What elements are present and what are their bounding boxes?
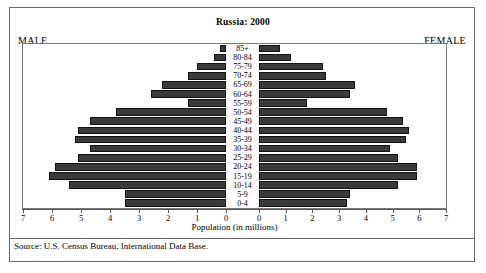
age-group-label: 80-84 xyxy=(226,53,259,62)
bar-male-40-44 xyxy=(78,127,226,135)
bar-female-0-4 xyxy=(259,199,347,207)
bar-female-30-34 xyxy=(259,145,390,153)
bar-male-55-59 xyxy=(188,99,226,107)
bar-male-20-24 xyxy=(55,163,226,171)
bar-female-65-69 xyxy=(259,81,355,89)
plot-area: 85+80-8475-7970-7465-6960-6455-5950-5445… xyxy=(22,43,447,209)
age-group-label: 30-34 xyxy=(226,144,259,153)
bar-female-50-54 xyxy=(259,108,387,116)
source-note: Source: U.S. Census Bureau, Internationa… xyxy=(14,241,208,251)
age-group-label: 20-24 xyxy=(226,162,259,171)
bar-female-5-9 xyxy=(259,190,350,198)
bar-female-25-29 xyxy=(259,154,398,162)
bar-male-60-64 xyxy=(151,90,226,98)
age-group-label: 60-64 xyxy=(226,90,259,99)
bar-male-35-39 xyxy=(75,136,226,144)
age-group-label: 15-19 xyxy=(226,172,259,181)
age-group-label: 45-49 xyxy=(226,117,259,126)
bar-female-45-49 xyxy=(259,117,403,125)
age-group-label: 85+ xyxy=(226,44,259,53)
bar-male-25-29 xyxy=(78,154,226,162)
bar-male-70-74 xyxy=(188,72,226,80)
bar-male-5-9 xyxy=(125,190,227,198)
age-group-label: 50-54 xyxy=(226,108,259,117)
age-group-label: 75-79 xyxy=(226,62,259,71)
age-group-label: 65-69 xyxy=(226,80,259,89)
age-group-label: 55-59 xyxy=(226,99,259,108)
age-group-label: 0-4 xyxy=(226,199,259,208)
age-label-column: 85+80-8475-7970-7465-6960-6455-5950-5445… xyxy=(226,44,259,208)
bar-female-15-19 xyxy=(259,172,417,180)
x-axis-title: Population (in millions) xyxy=(22,222,447,232)
bar-male-80-84 xyxy=(214,54,226,62)
bar-female-55-59 xyxy=(259,99,307,107)
age-group-label: 25-29 xyxy=(226,153,259,162)
bar-male-30-34 xyxy=(90,145,226,153)
bar-male-50-54 xyxy=(116,108,226,116)
age-group-label: 40-44 xyxy=(226,126,259,135)
bar-female-40-44 xyxy=(259,127,409,135)
axis-line xyxy=(22,209,447,210)
bar-male-65-69 xyxy=(162,81,226,89)
bar-female-20-24 xyxy=(259,163,417,171)
bar-female-85+ xyxy=(259,45,280,53)
age-group-label: 5-9 xyxy=(226,190,259,199)
source-divider xyxy=(9,238,475,239)
bar-male-45-49 xyxy=(90,117,226,125)
bar-male-15-19 xyxy=(49,172,226,180)
age-group-label: 70-74 xyxy=(226,71,259,80)
bar-female-80-84 xyxy=(259,54,291,62)
age-group-label: 35-39 xyxy=(226,135,259,144)
bar-female-35-39 xyxy=(259,136,406,144)
bar-female-10-14 xyxy=(259,181,398,189)
bar-male-75-79 xyxy=(197,63,226,71)
bar-female-75-79 xyxy=(259,63,323,71)
age-group-label: 10-14 xyxy=(226,181,259,190)
page-title: Russia: 2000 xyxy=(10,17,476,27)
bar-female-60-64 xyxy=(259,90,350,98)
bar-female-70-74 xyxy=(259,72,326,80)
bar-male-10-14 xyxy=(69,181,226,189)
population-pyramid-figure: Russia: 2000 MALE FEMALE 85+80-8475-7970… xyxy=(0,0,486,273)
bar-male-0-4 xyxy=(125,199,227,207)
